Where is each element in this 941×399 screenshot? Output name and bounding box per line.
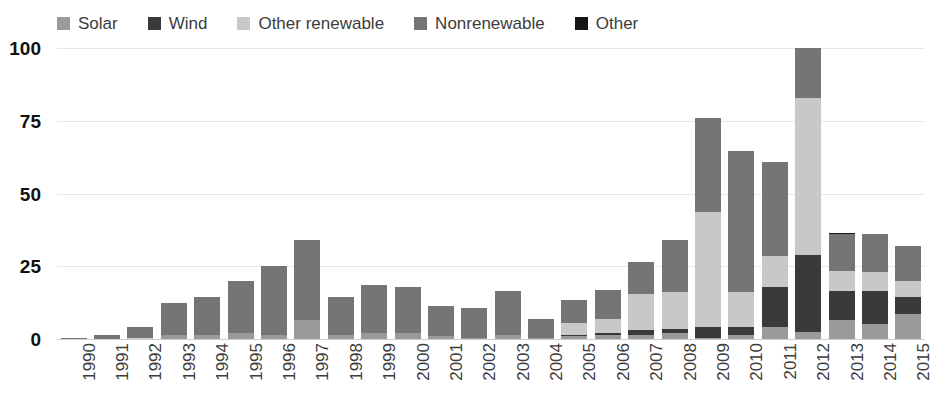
bar-segment-other-renewable[interactable] (695, 212, 721, 327)
bar-segment-solar[interactable] (795, 332, 821, 339)
bar-segment-other-renewable[interactable] (895, 281, 921, 297)
bar-segment-nonrenewable[interactable] (895, 246, 921, 281)
bar-segment-solar[interactable] (194, 335, 220, 339)
bar-1992[interactable] (127, 327, 153, 339)
y-tick-label-25: 25 (20, 257, 41, 276)
bar-1998[interactable] (328, 297, 354, 339)
bar-segment-nonrenewable[interactable] (328, 297, 354, 335)
bar-segment-wind[interactable] (795, 255, 821, 332)
bar-2001[interactable] (428, 306, 454, 339)
bar-segment-other-renewable[interactable] (762, 256, 788, 287)
bar-segment-nonrenewable[interactable] (94, 335, 120, 339)
bar-segment-other-renewable[interactable] (127, 338, 153, 339)
bar-2000[interactable] (395, 287, 421, 339)
legend-item-solar[interactable]: Solar (57, 15, 118, 32)
bar-segment-solar[interactable] (762, 327, 788, 339)
bar-segment-nonrenewable[interactable] (161, 303, 187, 335)
bar-1997[interactable] (294, 240, 320, 339)
bar-segment-other-renewable[interactable] (829, 271, 855, 291)
bar-2013[interactable] (829, 233, 855, 339)
bar-segment-solar[interactable] (561, 336, 587, 339)
bar-segment-nonrenewable[interactable] (261, 266, 287, 334)
bar-segment-other-renewable[interactable] (862, 272, 888, 291)
bar-2010[interactable] (728, 151, 754, 339)
bar-segment-nonrenewable[interactable] (428, 306, 454, 337)
bar-segment-nonrenewable[interactable] (762, 162, 788, 257)
bar-2005[interactable] (561, 300, 587, 339)
legend-item-wind[interactable]: Wind (148, 15, 208, 32)
legend-item-nonrenewable[interactable]: Nonrenewable (414, 15, 545, 32)
bar-segment-other-renewable[interactable] (595, 319, 621, 334)
bar-segment-other-renewable[interactable] (561, 323, 587, 335)
bar-2011[interactable] (762, 162, 788, 339)
bar-segment-nonrenewable[interactable] (127, 327, 153, 337)
bar-segment-wind[interactable] (862, 291, 888, 324)
bar-segment-solar[interactable] (528, 338, 554, 339)
bar-segment-solar[interactable] (294, 320, 320, 339)
bar-segment-solar[interactable] (395, 333, 421, 339)
bar-segment-nonrenewable[interactable] (728, 151, 754, 292)
bar-segment-wind[interactable] (695, 327, 721, 337)
bar-1996[interactable] (261, 266, 287, 339)
bar-segment-solar[interactable] (829, 320, 855, 339)
bar-segment-solar[interactable] (862, 324, 888, 339)
bar-segment-wind[interactable] (895, 297, 921, 314)
bar-2009[interactable] (695, 118, 721, 339)
bar-segment-solar[interactable] (895, 314, 921, 339)
bar-segment-solar[interactable] (728, 335, 754, 339)
bar-segment-solar[interactable] (662, 333, 688, 339)
bar-2012[interactable] (795, 48, 821, 339)
bar-2008[interactable] (662, 240, 688, 339)
bar-segment-other-renewable[interactable] (662, 292, 688, 328)
bar-segment-nonrenewable[interactable] (294, 240, 320, 320)
bar-segment-nonrenewable[interactable] (61, 338, 87, 339)
bar-segment-nonrenewable[interactable] (662, 240, 688, 292)
bar-segment-nonrenewable[interactable] (595, 290, 621, 319)
bar-segment-nonrenewable[interactable] (395, 287, 421, 334)
bar-segment-solar[interactable] (695, 338, 721, 339)
bar-segment-solar[interactable] (361, 333, 387, 339)
bar-segment-nonrenewable[interactable] (862, 234, 888, 272)
bar-segment-solar[interactable] (261, 335, 287, 339)
bar-segment-nonrenewable[interactable] (495, 291, 521, 335)
bar-1993[interactable] (161, 303, 187, 339)
bar-segment-nonrenewable[interactable] (194, 297, 220, 335)
bar-segment-nonrenewable[interactable] (528, 319, 554, 338)
bar-1994[interactable] (194, 297, 220, 339)
bar-2003[interactable] (495, 291, 521, 339)
bar-1995[interactable] (228, 281, 254, 339)
legend-item-other[interactable]: Other (575, 15, 639, 32)
bar-segment-nonrenewable[interactable] (561, 300, 587, 323)
bar-segment-wind[interactable] (728, 327, 754, 334)
bar-segment-solar[interactable] (495, 335, 521, 339)
bar-2004[interactable] (528, 319, 554, 339)
bar-segment-other-renewable[interactable] (795, 98, 821, 255)
bar-segment-nonrenewable[interactable] (695, 118, 721, 213)
bar-segment-solar[interactable] (161, 335, 187, 339)
bar-segment-other-renewable[interactable] (628, 294, 654, 330)
bar-segment-solar[interactable] (228, 333, 254, 339)
bar-2015[interactable] (895, 246, 921, 339)
bar-segment-solar[interactable] (461, 338, 487, 339)
bar-segment-nonrenewable[interactable] (228, 281, 254, 333)
bar-segment-solar[interactable] (428, 336, 454, 339)
bar-segment-nonrenewable[interactable] (361, 285, 387, 333)
bar-segment-wind[interactable] (762, 287, 788, 328)
bar-segment-other-renewable[interactable] (728, 292, 754, 327)
bar-segment-nonrenewable[interactable] (461, 308, 487, 337)
bar-2014[interactable] (862, 234, 888, 339)
bar-2007[interactable] (628, 262, 654, 339)
bar-1991[interactable] (94, 335, 120, 339)
bar-2006[interactable] (595, 290, 621, 339)
bar-1999[interactable] (361, 285, 387, 339)
bar-segment-solar[interactable] (328, 335, 354, 339)
legend-item-other-renewable[interactable]: Other renewable (237, 15, 384, 32)
bar-segment-nonrenewable[interactable] (829, 234, 855, 270)
bar-segment-solar[interactable] (628, 335, 654, 339)
bar-segment-nonrenewable[interactable] (795, 48, 821, 97)
bar-segment-nonrenewable[interactable] (628, 262, 654, 294)
bar-2002[interactable] (461, 308, 487, 339)
bar-segment-solar[interactable] (595, 335, 621, 339)
bar-1990[interactable] (61, 338, 87, 339)
bar-segment-wind[interactable] (829, 291, 855, 320)
